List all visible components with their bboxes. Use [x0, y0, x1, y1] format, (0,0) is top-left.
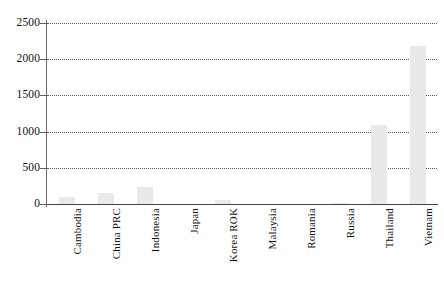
y-axis-tick: [40, 95, 47, 96]
bar: [137, 187, 153, 204]
bar-series: [47, 23, 437, 204]
x-axis-category-label: Korea ROK: [228, 208, 239, 262]
x-axis-line: [40, 204, 438, 205]
bar: [410, 46, 426, 204]
y-axis-tick: [40, 23, 47, 24]
y-axis-tick-label: 1500: [0, 89, 40, 101]
y-axis-tick: [40, 59, 47, 60]
bar: [215, 200, 231, 204]
y-axis-tick-label: 500: [0, 162, 40, 174]
y-axis-tick: [40, 132, 47, 133]
bar: [98, 193, 114, 204]
y-axis-tick-label: 0: [0, 198, 40, 210]
x-axis-category-label: China PRC: [111, 208, 122, 259]
bar: [332, 203, 348, 204]
y-axis-tick-label: 1000: [0, 126, 40, 138]
y-axis-tick-label: 2000: [0, 53, 40, 65]
x-axis-category-label: Indonesia: [150, 208, 161, 252]
x-axis-category-label: Malaysia: [267, 208, 278, 250]
x-axis-category-label: Cambodia: [72, 208, 83, 254]
x-axis-category-label: Vietnam: [423, 208, 434, 246]
y-axis-tick: [40, 168, 47, 169]
x-axis-category-labels: CambodiaChina PRCIndonesiaJapanKorea ROK…: [47, 208, 437, 284]
bar-chart: CambodiaChina PRCIndonesiaJapanKorea ROK…: [0, 0, 444, 299]
bar: [371, 125, 387, 204]
bar: [59, 197, 75, 204]
x-axis-category-label: Thailand: [384, 208, 395, 248]
y-axis-tick-label: 2500: [0, 17, 40, 29]
x-axis-category-label: Romania: [306, 208, 317, 249]
x-axis-category-label: Russia: [345, 208, 356, 238]
x-axis-category-label: Japan: [189, 208, 200, 234]
figure-caption: [8, 288, 428, 299]
y-axis-tick: [40, 204, 47, 205]
